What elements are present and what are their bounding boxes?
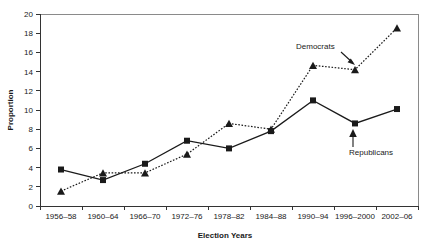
y-tick-label: 14 bbox=[24, 68, 33, 77]
line-chart-canvas: 20 18 16 14 12 10 8 6 4 2 0 1956 bbox=[0, 0, 433, 246]
annotation-republicans: Republicans bbox=[349, 129, 393, 157]
data-point-democrats-7 bbox=[351, 66, 359, 73]
y-tick-label: 12 bbox=[24, 87, 33, 96]
x-tick-label: 1984–88 bbox=[255, 212, 287, 221]
x-axis-tick-labels: 1956–58 1960–64 1966–70 1972–76 1978–82 … bbox=[45, 212, 413, 221]
y-tick-label: 10 bbox=[24, 106, 33, 115]
annotation-arrowhead-republicans bbox=[349, 129, 357, 137]
data-point-republicans-3 bbox=[184, 138, 190, 144]
x-tick-label: 2002–06 bbox=[381, 212, 413, 221]
x-tick-label: 1990–94 bbox=[297, 212, 329, 221]
y-axis-tick-labels: 20 18 16 14 12 10 8 6 4 2 0 bbox=[24, 10, 33, 211]
y-tick-label: 8 bbox=[29, 125, 34, 134]
x-axis-ticks bbox=[40, 206, 418, 210]
data-point-republicans-0 bbox=[58, 167, 64, 173]
y-tick-label: 2 bbox=[29, 183, 34, 192]
x-tick-label: 1956–58 bbox=[45, 212, 77, 221]
data-point-democrats-0 bbox=[57, 188, 65, 195]
y-tick-label: 4 bbox=[29, 164, 34, 173]
annotation-label-democrats: Democrats bbox=[296, 42, 335, 51]
data-point-republicans-1 bbox=[100, 177, 106, 183]
series-line-democrats bbox=[61, 28, 397, 191]
annotation-democrats: Democrats bbox=[296, 42, 355, 65]
x-tick-label: 1978–82 bbox=[213, 212, 245, 221]
data-point-republicans-8 bbox=[394, 106, 400, 112]
chart-figure: 20 18 16 14 12 10 8 6 4 2 0 1956 bbox=[0, 0, 433, 246]
data-point-republicans-4 bbox=[226, 145, 232, 151]
data-point-republicans-2 bbox=[142, 161, 148, 167]
annotation-label-republicans: Republicans bbox=[349, 148, 393, 157]
y-tick-label: 6 bbox=[29, 144, 34, 153]
data-point-democrats-8 bbox=[393, 24, 401, 31]
x-tick-label: 1972–76 bbox=[171, 212, 203, 221]
data-point-republicans-6 bbox=[310, 97, 316, 103]
x-axis-title: Election Years bbox=[198, 231, 253, 240]
y-tick-label: 20 bbox=[24, 10, 33, 19]
data-series-layer bbox=[57, 24, 401, 194]
y-axis-title: Proportion bbox=[6, 89, 15, 130]
y-axis-ticks bbox=[36, 14, 40, 206]
data-point-democrats-4 bbox=[225, 120, 233, 127]
series-line-republicans bbox=[61, 100, 397, 180]
y-tick-label: 16 bbox=[24, 48, 33, 57]
plot-frame bbox=[40, 14, 418, 206]
data-point-republicans-7 bbox=[352, 120, 358, 126]
x-tick-label: 1960–64 bbox=[87, 212, 119, 221]
data-point-democrats-3 bbox=[183, 151, 191, 158]
y-tick-label: 0 bbox=[29, 202, 34, 211]
x-tick-label: 1996–2000 bbox=[335, 212, 376, 221]
x-tick-label: 1966–70 bbox=[129, 212, 161, 221]
y-tick-label: 18 bbox=[24, 29, 33, 38]
data-point-democrats-2 bbox=[141, 169, 149, 176]
